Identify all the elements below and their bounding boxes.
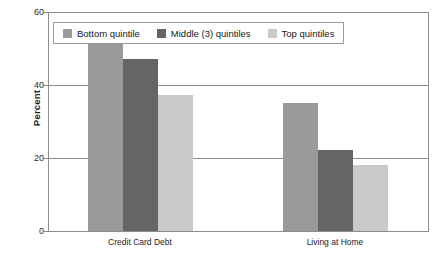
x-category-label-credit-card-debt: Credit Card Debt <box>90 237 190 247</box>
bar-chart: Percent 60 40 20 0 Bottom quinti <box>0 0 441 266</box>
legend-item-top-quintiles: Top quintiles <box>268 28 335 39</box>
legend-label: Middle (3) quintiles <box>171 28 251 39</box>
chart-legend: Bottom quintile Middle (3) quintiles Top… <box>53 22 344 44</box>
y-tick-label-60: 60 <box>18 7 44 17</box>
y-tick-label-20: 20 <box>18 153 44 163</box>
y-tick-label-0: 0 <box>18 226 44 236</box>
plot-inner <box>49 13 428 231</box>
legend-item-bottom-quintile: Bottom quintile <box>63 28 140 39</box>
bar-credit-card-debt-top-quintiles <box>158 95 193 231</box>
legend-swatch-icon <box>63 29 72 38</box>
legend-label: Top quintiles <box>282 28 335 39</box>
bar-credit-card-debt-bottom-quintile <box>88 44 123 231</box>
bar-living-at-home-bottom-quintile <box>283 103 318 231</box>
bar-living-at-home-top-quintiles <box>353 165 388 231</box>
legend-item-middle-quintiles: Middle (3) quintiles <box>157 28 251 39</box>
x-category-label-living-at-home: Living at Home <box>285 237 385 247</box>
bar-living-at-home-middle-quintiles <box>318 150 353 231</box>
bar-credit-card-debt-middle-quintiles <box>123 59 158 231</box>
y-axis-tick-labels: 60 40 20 0 <box>14 0 44 266</box>
y-tick-label-40: 40 <box>18 80 44 90</box>
legend-label: Bottom quintile <box>77 28 140 39</box>
legend-swatch-icon <box>268 29 277 38</box>
legend-swatch-icon <box>157 29 166 38</box>
plot-area <box>48 12 429 232</box>
